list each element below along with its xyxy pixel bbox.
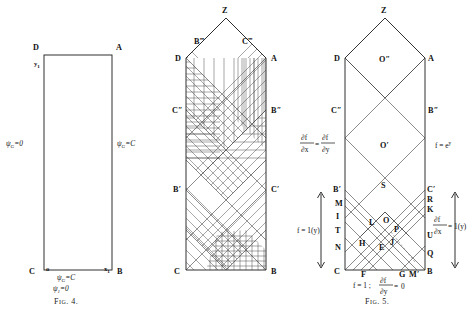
fig6-right-mark-4: Q: [427, 249, 434, 258]
fig6-eq-b-rel: =: [394, 282, 398, 291]
fig6-eq-lu-num1: ∂f: [301, 133, 308, 142]
fig4-label-C: C: [29, 267, 35, 276]
fig5-label-Bp: B′: [173, 185, 181, 194]
fig6-eq-b-pre: f = 1 ;: [353, 281, 371, 290]
figure-6: Z D A O″ C″ B″ O′ B′ M I T N C C′ R K U …: [295, 0, 473, 320]
fig4-label-D: D: [33, 43, 39, 52]
fig5-label-Bpp: B″: [271, 106, 281, 115]
fig6-left-mark-0: B′: [333, 185, 341, 194]
fig6-right-mark-3: U: [427, 231, 433, 240]
fig6-label-Op: O′: [380, 141, 389, 150]
fig4-condition-bottom-2: ψ1=0: [53, 284, 69, 294]
fig6-equation-left-lower: f = 1(y): [297, 226, 320, 235]
fig5-label-Cpp: C″: [172, 106, 183, 115]
fig6-label-Opp: O″: [379, 55, 390, 64]
fig6-right-mark-2: K: [427, 205, 434, 214]
fig4-condition-bottom-1: ψG=C: [57, 273, 75, 283]
fig4-rectangle: [44, 55, 112, 270]
fig5-horizontal-hatch-left: [178, 62, 278, 158]
figure-4: D A C B y1 o x1 ψG=0 ψG=C ψG=C ψ1=0 Fig.…: [0, 0, 158, 320]
fig6-interior-P: P: [394, 225, 399, 234]
fig4-axis-y1: y1: [34, 60, 40, 69]
fig6-bottom-mark-G: G: [399, 270, 406, 279]
fig6-label-A: A: [428, 54, 434, 63]
fig6-bottom-mark-Mp: M′: [409, 270, 419, 279]
fig5-label-Cppp: C‴: [242, 37, 253, 46]
fig6-right-mark-5: B: [427, 267, 433, 276]
fig5-label-A: A: [271, 54, 277, 63]
fig6-left-mark-5: C: [334, 267, 340, 276]
fig4-condition-right: ψG=C: [117, 139, 135, 149]
fig4-axis-origin: o: [46, 265, 50, 272]
fig6-interior-L: L: [369, 218, 375, 227]
fig6-eq-b-value: 0: [401, 282, 405, 291]
fig6-eq-lu-num2: ∂f: [322, 133, 329, 142]
fig6-interior-E: E: [379, 243, 385, 252]
fig6-eq-lu-den2: ∂y: [322, 145, 330, 154]
fig6-interior-J: J: [390, 238, 394, 247]
fig6-interior-H: H: [359, 239, 366, 248]
fig6-label-Z: Z: [381, 6, 387, 15]
fig6-equation-right-upper: f = ey: [435, 140, 452, 150]
fig6-interior-S: S: [381, 181, 386, 190]
fig6-eq-b-num: ∂f: [380, 276, 387, 285]
figure-4-caption: Fig. 4.: [54, 297, 78, 306]
fig6-left-mark-4: N: [335, 243, 341, 252]
fig6-label-Cpp: C″: [331, 106, 342, 115]
figure-6-drawing: Z D A O″ C″ B″ O′ B′ M I T N C C′ R K U …: [295, 0, 473, 300]
fig6-equation-right-lower: ∂f ∂x = 1(y): [433, 215, 467, 236]
figure-4-drawing: D A C B y1 o x1 ψG=0 ψG=C ψG=C ψ1=0: [0, 0, 158, 300]
fig6-left-mark-1: M: [335, 199, 343, 208]
fig4-axis-x1: x1: [104, 265, 110, 274]
fig6-left-mark-3: T: [335, 226, 341, 235]
fig6-eq-rl-den: ∂x: [434, 227, 442, 236]
fig6-eq-rl-num: ∂f: [434, 215, 441, 224]
fig6-eq-b-den: ∂y: [380, 287, 388, 296]
figure-5-drawing: Z B‴ C‴ D A C″ B″ B′ C′ C B: [158, 0, 295, 300]
fig5-label-Z: Z: [222, 6, 228, 15]
fig6-eq-lu-den1: ∂x: [301, 145, 309, 154]
fig6-lower-fan: [345, 198, 425, 270]
fig5-label-Bppp: B‴: [194, 37, 205, 46]
fig6-eq-rl-rel: =: [448, 222, 452, 231]
fig6-right-mark-0: C′: [427, 185, 436, 194]
figure-5: Z B‴ C‴ D A C″ B″ B′ C′ C B Fig. 5.: [158, 0, 295, 320]
fig6-label-Bpp: B″: [428, 106, 438, 115]
fig6-bottom-mark-F: F: [361, 270, 366, 279]
fig6-label-D: D: [334, 54, 340, 63]
fig5-label-D: D: [175, 54, 181, 63]
fig6-equation-left-upper: ∂f ∂x = ∂f ∂y: [300, 133, 335, 154]
fig6-interior-O: O: [383, 216, 390, 225]
fig4-label-A: A: [116, 43, 122, 52]
fig5-label-B: B: [271, 267, 277, 276]
fig5-label-Cp: C′: [271, 185, 280, 194]
fig4-condition-left: ψG=0: [6, 139, 23, 149]
fig6-left-mark-2: I: [336, 212, 339, 221]
fig6-eq-lu-rel: =: [315, 140, 319, 149]
fig4-label-B: B: [117, 267, 123, 276]
fig6-right-mark-1: R: [427, 195, 433, 204]
fig5-label-C: C: [174, 267, 180, 276]
fig6-equation-bottom: f = 1 ; ∂f ∂y = 0: [353, 276, 405, 296]
fig6-eq-rl-rhs: 1(y): [454, 222, 467, 231]
